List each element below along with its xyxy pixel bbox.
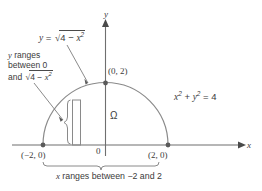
point-marker-top (103, 81, 108, 86)
vertical-strip (73, 100, 81, 145)
y-axis-arrowhead (102, 19, 109, 27)
region-label: Ω (110, 110, 117, 122)
curve-equation-label: y = √4 − x2 (39, 30, 85, 44)
figure-canvas: y x 0 y = √4 − x2 y ranges between 0 and… (0, 0, 262, 191)
point-marker-right (166, 143, 171, 148)
leader-curve-equation (67, 45, 88, 84)
point-marker-left (41, 143, 46, 148)
y-range-line-3: and √4 − x2 (8, 70, 53, 82)
x-axis-arrowhead (238, 142, 246, 149)
y-range-line-1: y ranges (8, 50, 53, 60)
x-axis (12, 142, 246, 149)
strip-brace (64, 100, 71, 144)
point-label-right: (2, 0) (148, 150, 168, 161)
circle-equation-label: x2 + y2 = 4 (174, 90, 217, 103)
leader-y-range (34, 83, 63, 122)
x-axis-label: x (247, 140, 251, 151)
y-axis (102, 19, 109, 156)
y-range-line-2: between 0 (8, 60, 53, 70)
origin-label: 0 (96, 146, 101, 157)
y-range-annotation: y ranges between 0 and √4 − x2 (8, 50, 53, 82)
point-label-left: (−2, 0) (21, 150, 46, 161)
point-label-top: (0, 2) (108, 66, 128, 77)
x-range-brace (43, 162, 159, 170)
x-range-annotation: x ranges between −2 and 2 (56, 171, 162, 181)
diagram-svg (0, 0, 262, 191)
y-axis-label: y (104, 9, 108, 20)
